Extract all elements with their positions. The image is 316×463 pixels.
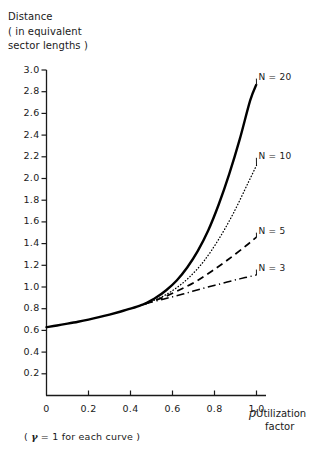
y-tick-label: 0.2 [14,367,40,378]
y-tick-label: 2.2 [14,150,40,161]
x-tick-label: 0.6 [158,403,188,414]
y-tick-label: 2.8 [14,85,40,96]
curve-n-20 [145,84,256,304]
y-tick-label: 2.6 [14,107,40,118]
x-tick-label: 0.2 [74,403,104,414]
series-label-n-20: N = 20 [258,72,291,82]
x-tick-label: 0.4 [116,403,146,414]
series-label-n-10: N = 10 [258,151,291,161]
chart-figure: Distance ( in equivalent sector lengths … [0,0,316,463]
y-tick-label: 1.8 [14,194,40,205]
y-axis-ticks [42,70,47,374]
axis-lines [46,70,266,396]
y-tick-label: 2.0 [14,172,40,183]
x-axis-label-line-2: factor [249,420,306,433]
y-tick-label: 0.6 [14,324,40,335]
rho-symbol: ρ [249,406,256,420]
y-tick-label: 1.0 [14,281,40,292]
x-axis-label: ρUtilization factor [249,407,306,433]
shared-curve-segment [47,304,146,327]
curve-n-10 [145,165,256,303]
y-tick-label: 1.4 [14,237,40,248]
x-tick-label: 0.8 [200,403,230,414]
x-axis-label-line-1: Utilization [256,408,306,419]
data-curves [47,79,257,328]
y-axis-title: Distance ( in equivalent sector lengths … [8,10,88,54]
y-tick-label: 1.6 [14,215,40,226]
y-axis-title-line-1: Distance [8,10,88,25]
chart-footnote: ( γ = 1 for each curve ) [24,431,140,442]
y-axis-title-line-3: sector lengths ) [8,39,88,54]
y-tick-label: 0.8 [14,302,40,313]
footnote-rest: = 1 for each curve ) [38,431,141,442]
x-axis-ticks [89,391,257,396]
series-label-n-3: N = 3 [258,263,285,273]
series-label-n-5: N = 5 [258,226,285,236]
x-tick-label: 0 [32,403,62,414]
y-tick-label: 2.4 [14,129,40,140]
y-tick-label: 1.2 [14,259,40,270]
y-tick-label: 3.0 [14,64,40,75]
y-tick-label: 0.4 [14,346,40,357]
y-axis-title-line-2: ( in equivalent [8,25,88,40]
